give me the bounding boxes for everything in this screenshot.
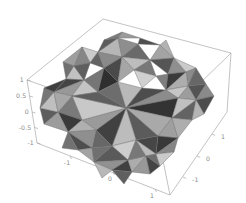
z-tick-label-1: 1: [20, 76, 24, 83]
plot-root: 1 0.5 0 -0.5 -1 -1 0 1 1 0 -1: [0, 0, 246, 203]
y-tick-label-0: 0: [206, 155, 210, 162]
polyhedron-3d-plot: 1 0.5 0 -0.5 -1 -1 0 1 1 0 -1: [0, 0, 246, 203]
x-tick-label-0: 0: [108, 175, 112, 182]
z-tick-label-neg-0-5: -0.5: [19, 124, 32, 131]
z-tick-label-neg-1: -1: [27, 139, 34, 146]
x-tick-label-neg-1: -1: [64, 159, 71, 166]
y-tick-label-1: 1: [221, 133, 225, 140]
x-tick-label-1: 1: [150, 192, 154, 199]
y-tick-label-neg-1: -1: [192, 176, 199, 183]
z-tick-label-0: 0: [25, 108, 29, 115]
z-tick-label-0-5: 0.5: [16, 92, 26, 99]
